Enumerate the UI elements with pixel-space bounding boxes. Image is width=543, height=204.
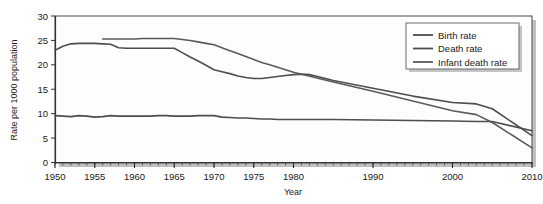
y-tick-label: 15 bbox=[37, 84, 48, 95]
x-tick-label: 2000 bbox=[442, 171, 463, 182]
y-tick-label: 10 bbox=[37, 108, 48, 119]
x-tick-label: 1980 bbox=[283, 171, 304, 182]
x-axis-title: Year bbox=[284, 187, 302, 197]
x-tick-label: 1960 bbox=[124, 171, 145, 182]
line-chart: 051015202530 195019551960196519701975198… bbox=[0, 0, 543, 204]
x-tick-label: 1990 bbox=[362, 171, 383, 182]
y-axis-title: Rate per 1000 population bbox=[9, 39, 19, 140]
y-tick-label: 0 bbox=[43, 157, 48, 168]
x-tick-label: 1950 bbox=[44, 171, 65, 182]
x-axis-tick-labels: 1950195519601965197019751980199020002010 bbox=[44, 171, 542, 182]
x-tick-label: 1965 bbox=[164, 171, 185, 182]
y-axis-ticks bbox=[51, 16, 55, 163]
chart-legend: Birth rateDeath rateInfant death rate bbox=[406, 23, 522, 72]
x-tick-label: 1975 bbox=[243, 171, 264, 182]
y-tick-label: 20 bbox=[37, 59, 48, 70]
legend-label-death-rate: Death rate bbox=[438, 43, 482, 54]
legend-label-infant-death-rate: Infant death rate bbox=[438, 57, 507, 68]
chart-figure: 051015202530 195019551960196519701975198… bbox=[0, 0, 543, 204]
y-tick-label: 25 bbox=[37, 35, 48, 46]
legend-label-birth-rate: Birth rate bbox=[438, 30, 477, 41]
x-tick-label: 1955 bbox=[84, 171, 105, 182]
y-tick-label: 30 bbox=[37, 11, 48, 22]
y-axis-tick-labels: 051015202530 bbox=[37, 11, 48, 169]
x-tick-label: 2010 bbox=[521, 171, 542, 182]
y-tick-label: 5 bbox=[43, 133, 48, 144]
x-tick-label: 1970 bbox=[203, 171, 224, 182]
